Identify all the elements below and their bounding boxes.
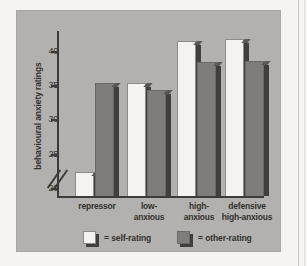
bar-body [177, 41, 196, 196]
legend-swatch-shadow-bottom [86, 244, 99, 247]
bar-body [225, 39, 244, 196]
bar-shadow-right [216, 66, 221, 196]
scanned-page-background: 2025303540 behavioural anxiety ratings r… [0, 0, 307, 266]
plot-area: 2025303540 behavioural anxiety ratings r… [17, 11, 280, 251]
bar-shadow-top [213, 62, 222, 66]
chart-legend: = self-rating= other-rating [17, 227, 280, 253]
x-axis-label-defensive: defensivehigh-anxious [207, 201, 287, 222]
bar-body [197, 62, 216, 196]
legend-label: = self-rating [104, 233, 151, 243]
legend-swatch-body [177, 231, 190, 244]
bar-other-rating-high--anxious [197, 62, 216, 196]
y-axis-tick-mark [51, 119, 58, 121]
bar-shadow-right [264, 65, 269, 196]
bar-self-rating-repressor [75, 172, 94, 196]
legend-item-self-rating: = self-rating [83, 227, 151, 249]
bar-self-rating-defensive-high-anxious [225, 39, 244, 196]
x-axis-label-line: high-anxious [207, 212, 287, 223]
legend-swatch-self [83, 231, 98, 246]
y-axis-tick: 20 [17, 188, 58, 190]
bar-shadow-top [143, 83, 152, 87]
y-axis-tick-mark [51, 154, 58, 156]
y-axis-tick-mark [51, 51, 58, 53]
chart-figure-panel: 2025303540 behavioural anxiety ratings r… [17, 11, 280, 251]
legend-label: = other-rating [198, 233, 252, 243]
bar-other-rating-low--anxious [147, 90, 166, 196]
bar-shadow-top [241, 39, 250, 43]
page-edge-line-inner [298, 0, 299, 266]
bar-shadow-right [166, 94, 171, 196]
page-edge-line-outer [304, 0, 305, 266]
bar-body [95, 83, 114, 196]
y-axis-tick-mark [51, 188, 58, 190]
bar-shadow-top [163, 90, 172, 94]
x-axis-label-line: defensive [207, 201, 287, 212]
bar-shadow-right [114, 87, 119, 196]
y-axis-title: behavioural anxiety ratings [33, 46, 43, 186]
bar-body [245, 61, 264, 196]
legend-swatch-body [83, 231, 96, 244]
legend-swatch-shadow-bottom [180, 244, 193, 247]
y-axis-tick-mark [51, 85, 58, 87]
x-axis-line [57, 196, 264, 198]
bar-body [147, 90, 166, 196]
bar-self-rating-high--anxious [177, 41, 196, 196]
bar-other-rating-defensive-high-anxious [245, 61, 264, 196]
bar-shadow-top [261, 61, 270, 65]
bar-body [127, 83, 146, 196]
bar-shadow-top [111, 83, 120, 87]
bar-self-rating-low--anxious [127, 83, 146, 196]
legend-item-other-rating: = other-rating [177, 227, 252, 249]
legend-swatch-other [177, 231, 192, 246]
bar-shadow-top [193, 41, 202, 45]
bar-other-rating-repressor [95, 83, 114, 196]
